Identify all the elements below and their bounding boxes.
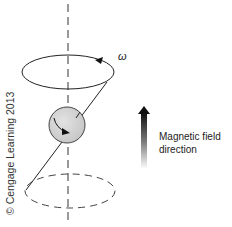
copyright-notice: © Cengage Learning 2013 xyxy=(4,92,16,215)
omega-label: ω xyxy=(118,50,127,62)
field-arrow-shaft xyxy=(141,113,147,169)
precession-diagram: ω xyxy=(0,0,232,227)
magnetic-field-label: Magnetic field direction xyxy=(159,130,221,156)
field-arrow-head-icon xyxy=(138,106,150,114)
magnetic-field-label-line1: Magnetic field xyxy=(159,130,221,143)
bottom-orbit-ellipse xyxy=(25,174,115,208)
magnetic-field-label-line2: direction xyxy=(159,143,221,156)
